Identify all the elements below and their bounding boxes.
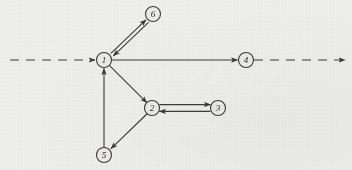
edge-1-to-6: [111, 20, 146, 54]
node-1[interactable]: 1: [97, 53, 112, 68]
diagram-canvas: 1 2 3 4 5 6: [0, 0, 352, 170]
edge-6-to-1: [113, 22, 148, 55]
graph-svg: 1 2 3 4 5 6: [0, 0, 352, 170]
node-1-label: 1: [102, 55, 107, 65]
node-layer: 1 2 3 4 5 6: [97, 7, 254, 163]
node-5-label: 5: [102, 150, 107, 160]
edge-layer: [10, 20, 345, 149]
node-6-label: 6: [151, 9, 156, 19]
node-4-label: 4: [244, 55, 249, 65]
node-6[interactable]: 6: [146, 7, 161, 22]
node-4[interactable]: 4: [239, 53, 254, 68]
edge-1-to-2: [109, 65, 147, 102]
edge-2-to-5: [111, 114, 147, 149]
node-5[interactable]: 5: [97, 148, 112, 163]
node-3[interactable]: 3: [211, 101, 226, 116]
node-3-label: 3: [215, 103, 221, 113]
node-2-label: 2: [150, 103, 155, 113]
node-2[interactable]: 2: [145, 101, 160, 116]
